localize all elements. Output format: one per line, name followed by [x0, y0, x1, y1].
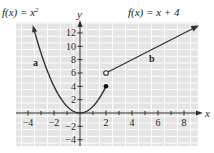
- svg-text:2: 2: [104, 117, 109, 128]
- svg-text:2: 2: [71, 94, 76, 105]
- piecewise-function-chart: x y −4−22468 12108642−2−4 f(x) = x2 f(x)…: [0, 0, 214, 153]
- right-equation-label: f(x) = x + 4: [128, 6, 180, 19]
- svg-text:6: 6: [156, 117, 161, 128]
- svg-text:4: 4: [71, 81, 76, 92]
- closed-endpoint: [104, 84, 109, 89]
- svg-text:8: 8: [71, 54, 76, 65]
- y-axis-label: y: [76, 8, 82, 20]
- left-equation-label: f(x) = x2: [2, 6, 39, 19]
- svg-text:−4: −4: [23, 117, 34, 128]
- x-axis-arrow-icon: [196, 111, 203, 116]
- svg-text:6: 6: [71, 67, 76, 78]
- x-axis-label: x: [204, 107, 210, 119]
- curve-b-label: b: [149, 53, 155, 64]
- svg-text:4: 4: [130, 117, 135, 128]
- svg-text:−2: −2: [65, 121, 76, 132]
- svg-text:−4: −4: [65, 134, 76, 145]
- open-endpoint: [104, 71, 109, 76]
- svg-text:10: 10: [66, 41, 76, 52]
- svg-text:8: 8: [182, 117, 187, 128]
- svg-text:−2: −2: [49, 117, 60, 128]
- curve-a-label: a: [33, 57, 38, 68]
- svg-text:12: 12: [66, 27, 76, 38]
